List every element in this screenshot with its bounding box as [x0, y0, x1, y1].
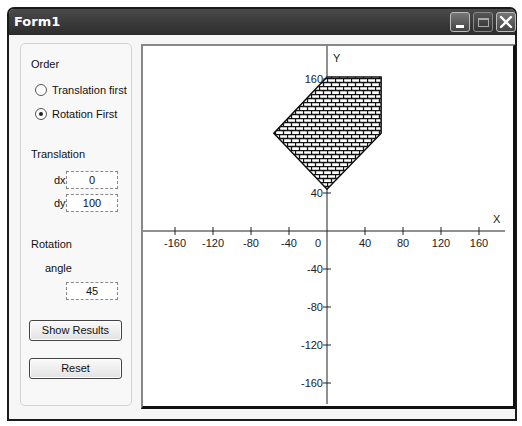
controls-panel: Order Translation first Rotation First T… — [20, 43, 132, 406]
svg-text:40: 40 — [311, 187, 323, 199]
radio-label: Rotation First — [52, 108, 117, 120]
maximize-button[interactable] — [473, 12, 493, 32]
radio-rotation-first[interactable]: Rotation First — [35, 108, 117, 120]
svg-text:-40: -40 — [307, 263, 323, 275]
svg-text:-120: -120 — [202, 237, 224, 249]
svg-text:-80: -80 — [307, 301, 323, 313]
show-results-button[interactable]: Show Results — [29, 320, 122, 341]
app-window: Form1 Order Translation first Rotation F… — [7, 7, 517, 421]
svg-text:160: 160 — [470, 237, 488, 249]
minimize-button[interactable] — [450, 12, 470, 32]
radio-unchecked-icon — [35, 84, 47, 96]
dy-input[interactable]: 100 — [66, 194, 118, 212]
radio-translation-first[interactable]: Translation first — [35, 84, 127, 96]
svg-text:120: 120 — [432, 237, 450, 249]
x-ticks: -160-120-80-4040801201600 — [164, 227, 488, 249]
close-button[interactable] — [496, 12, 516, 32]
plot-canvas[interactable]: -160-120-80-4040801201600 16040-40-80-12… — [141, 44, 516, 409]
close-icon — [499, 15, 513, 29]
order-label: Order — [31, 58, 59, 70]
reset-button[interactable]: Reset — [29, 358, 122, 379]
svg-text:-160: -160 — [164, 237, 186, 249]
dx-input[interactable]: 0 — [66, 171, 118, 189]
transformed-shape — [274, 77, 381, 189]
svg-text:-80: -80 — [243, 237, 259, 249]
window-title: Form1 — [14, 14, 60, 29]
angle-label: angle — [45, 262, 72, 274]
angle-input[interactable]: 45 — [66, 282, 118, 300]
dy-label: dy — [54, 197, 66, 209]
rotation-label: Rotation — [31, 238, 72, 250]
svg-text:40: 40 — [359, 237, 371, 249]
radio-checked-icon — [35, 108, 47, 120]
svg-text:-120: -120 — [301, 339, 323, 351]
radio-label: Translation first — [52, 84, 127, 96]
y-axis-label: Y — [333, 52, 341, 64]
minimize-icon — [456, 25, 464, 28]
svg-text:-160: -160 — [301, 377, 323, 389]
dx-label: dx — [54, 174, 66, 186]
client-area: Order Translation first Rotation First T… — [9, 35, 515, 419]
translation-label: Translation — [31, 148, 85, 160]
coordinate-plot: -160-120-80-4040801201600 16040-40-80-12… — [143, 46, 513, 406]
maximize-icon — [478, 18, 489, 27]
svg-text:-40: -40 — [281, 237, 297, 249]
svg-text:80: 80 — [397, 237, 409, 249]
x-axis-label: X — [493, 213, 501, 225]
svg-text:0: 0 — [315, 237, 321, 249]
title-bar[interactable]: Form1 — [9, 9, 515, 35]
